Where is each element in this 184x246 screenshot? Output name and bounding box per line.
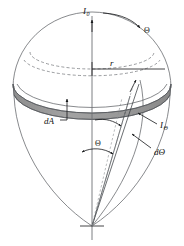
cone-inner-right-outline bbox=[92, 80, 143, 226]
band-edge-pointer bbox=[130, 80, 136, 92]
diagram-canvas: I0 Θ r dA IΘ dΘ Θ bbox=[0, 0, 184, 246]
polar-axis bbox=[80, 16, 104, 240]
theta-angle-group bbox=[82, 149, 113, 154]
label-dTheta: dΘ bbox=[154, 147, 166, 157]
label-Theta-mid: Θ bbox=[95, 139, 101, 148]
dtheta-pointer-group bbox=[132, 134, 151, 148]
label-I0: I0 bbox=[82, 6, 89, 17]
ray-wedge bbox=[92, 80, 139, 226]
I-theta-pointer-group bbox=[138, 113, 157, 124]
label-I-Theta: IΘ bbox=[159, 120, 168, 131]
I-theta-arrow bbox=[138, 113, 157, 124]
labels: I0 Θ r dA IΘ dΘ Θ bbox=[44, 6, 168, 157]
label-r: r bbox=[110, 58, 114, 68]
ray-line-outer bbox=[92, 84, 139, 226]
theta-angle-arc bbox=[82, 149, 113, 154]
dtheta-arrow bbox=[132, 134, 151, 148]
radius-group bbox=[92, 62, 165, 76]
theta-curved-arrow-group bbox=[103, 13, 140, 28]
wedge-indicator-arrow bbox=[95, 119, 121, 126]
label-Theta-top: Θ bbox=[144, 26, 150, 35]
wedge-indicator-group bbox=[95, 119, 121, 126]
label-dA: dA bbox=[44, 116, 55, 126]
theta-curved-arrow bbox=[103, 13, 140, 28]
radiation-geometry-figure: I0 Θ r dA IΘ dΘ Θ bbox=[0, 0, 184, 246]
